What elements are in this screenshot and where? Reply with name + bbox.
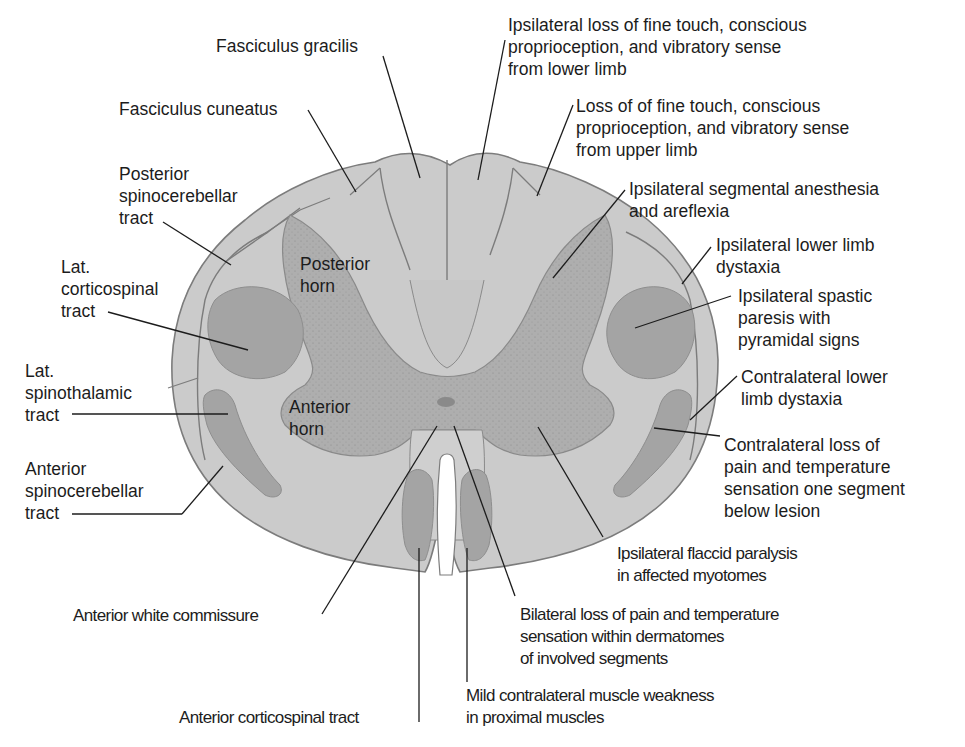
label-posterior-spinocerebellar-tract: Posterior spinocerebellar tract [119,163,238,229]
label-deficit-anterior-white-commissure: Bilateral loss of pain and temperature s… [520,604,779,670]
spinal-cord-diagram: Posterior horn Anterior horn Fasciculus … [0,0,965,747]
label-deficit-anterior-horn: Ipsilateral flaccid paralysis in affecte… [617,543,797,587]
label-lat-corticospinal-tract: Lat. corticospinal tract [61,256,158,322]
label-anterior-white-commissure: Anterior white commissure [73,605,258,627]
posterior-horn-label: Posterior horn [300,253,370,297]
label-anterior-corticospinal-tract: Anterior corticospinal tract [179,707,359,729]
label-deficit-gracilis: Ipsilateral loss of fine touch, consciou… [508,14,807,80]
anterior-corticospinal-tract-area [402,470,433,561]
label-fasciculus-gracilis: Fasciculus gracilis [216,35,358,57]
label-deficit-posterior-spinocerebellar: Ipsilateral lower limb dystaxia [716,234,875,278]
anterior-median-fissure [437,454,456,575]
label-fasciculus-cuneatus: Fasciculus cuneatus [119,98,278,120]
label-deficit-lat-spinothalamic: Contralateral loss of pain and temperatu… [724,434,905,522]
label-lat-spinothalamic-tract: Lat. spinothalamic tract [25,360,132,426]
label-deficit-anterior-spinocerebellar: Contralateral lower limb dystaxia [741,366,888,410]
anterior-horn-label: Anterior horn [289,396,350,440]
lat-corticospinal-tract-area [208,287,303,379]
label-deficit-lat-corticospinal: Ipsilateral spastic paresis with pyramid… [738,285,872,351]
label-deficit-posterior-horn: Ipsilateral segmental anesthesia and are… [629,178,879,222]
label-anterior-spinocerebellar-tract: Anterior spinocerebellar tract [25,458,144,524]
label-deficit-cuneatus: Loss of of fine touch, conscious proprio… [576,95,849,161]
central-canal [437,397,455,407]
label-deficit-anterior-corticospinal: Mild contralateral muscle weakness in pr… [466,685,714,729]
